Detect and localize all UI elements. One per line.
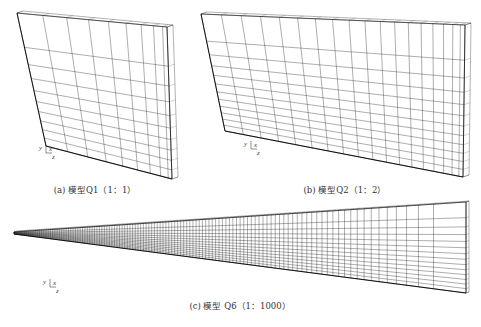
mesh-drawing: yxzyxzyxz (0, 0, 481, 327)
axis-triad-icon: yxz (243, 140, 260, 157)
axis-label-z: z (256, 149, 260, 157)
axis-label-z: z (51, 153, 55, 161)
axis-label-y: y (42, 278, 47, 286)
mesh-panel-c (14, 201, 469, 293)
caption-panel-a: (a) 模型Q1（1：1） (54, 183, 137, 195)
axis-label-x: x (52, 279, 57, 287)
mesh-panel-b (201, 12, 471, 177)
axis-label-y: y (243, 140, 248, 148)
caption-panel-c: (c) 模型 Q6（1：1000） (189, 299, 290, 311)
axis-label-x: x (253, 141, 258, 149)
figure-mesh-models: yxzyxzyxz (a) 模型Q1（1：1） (b) 模型Q2（1：2） (c… (0, 0, 481, 327)
axis-triad-icon: yxz (42, 278, 59, 295)
axis-label-y: y (38, 144, 43, 152)
caption-panel-b: (b) 模型Q2（1：2） (304, 183, 387, 195)
axis-label-z: z (55, 287, 59, 295)
axis-label-x: x (48, 145, 53, 153)
mesh-panel-a (17, 11, 178, 179)
